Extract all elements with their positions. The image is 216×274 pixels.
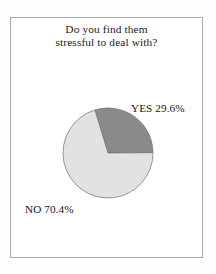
chart-frame: Do you find them stressful to deal with?…: [10, 17, 203, 258]
pie-label-no: NO 70.4%: [25, 203, 74, 215]
pie-chart: [11, 18, 204, 259]
pie-slices: [63, 108, 153, 198]
pie-label-yes: YES 29.6%: [131, 102, 185, 114]
figure-root: Do you find them stressful to deal with?…: [0, 0, 216, 274]
